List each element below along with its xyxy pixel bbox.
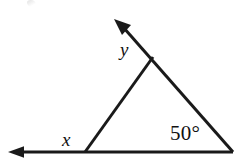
angle-label-y: y [120, 40, 128, 59]
angle-label-50-degrees: 50° [170, 123, 200, 144]
geometry-figure: y x 50° [0, 0, 250, 168]
figure-canvas [0, 0, 250, 168]
base-left-arrowhead [8, 146, 24, 158]
left-side-segment [85, 57, 153, 152]
angle-label-x: x [62, 130, 70, 149]
